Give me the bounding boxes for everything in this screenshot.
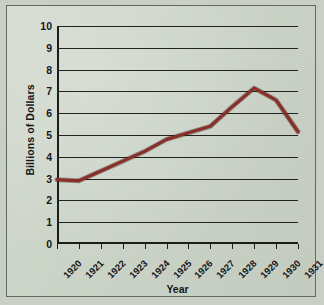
x-tick-label: 1924: [149, 258, 171, 280]
x-tick-mark: [145, 244, 146, 249]
y-axis-title: Billions of Dollars: [24, 55, 36, 205]
x-tick-mark: [188, 244, 189, 249]
y-tick-label: 3: [46, 173, 52, 184]
x-tick-mark: [232, 244, 233, 249]
x-tick-mark: [101, 244, 102, 249]
x-tick-mark: [79, 244, 80, 249]
x-tick-label: 1931: [303, 258, 324, 280]
plot-area: 012345678910 192019211922192319241925192…: [57, 26, 298, 244]
x-tick-label: 1920: [62, 258, 84, 280]
x-tick-mark: [167, 244, 168, 249]
y-tick-label: 4: [46, 152, 52, 163]
data-series-line: [57, 26, 298, 244]
x-tick-mark: [210, 244, 211, 249]
x-tick-label: 1929: [259, 258, 281, 280]
x-tick-label: 1927: [215, 258, 237, 280]
x-tick-label: 1925: [171, 258, 193, 280]
x-tick-label: 1922: [106, 258, 128, 280]
y-tick-label: 10: [40, 21, 52, 32]
x-tick-label: 1921: [84, 258, 106, 280]
y-tick-label: 5: [46, 130, 52, 141]
y-tick-label: 1: [46, 217, 52, 228]
x-axis-title: Year: [57, 283, 298, 295]
x-tick-mark: [298, 244, 299, 249]
y-tick-label: 9: [46, 43, 52, 54]
x-tick-label: 1923: [127, 258, 149, 280]
x-tick-mark: [123, 244, 124, 249]
y-tick-label: 6: [46, 108, 52, 119]
y-tick-label: 8: [46, 64, 52, 75]
x-tick-label: 1930: [281, 258, 303, 280]
chart-card: Billions of Dollars 012345678910 1920192…: [6, 5, 316, 297]
x-tick-label: 1926: [193, 258, 215, 280]
y-tick-label: 7: [46, 86, 52, 97]
y-tick-label: 0: [46, 239, 52, 250]
x-tick-label: 1928: [237, 258, 259, 280]
chart-screenshot: Billions of Dollars 012345678910 1920192…: [0, 0, 324, 305]
x-tick-mark: [254, 244, 255, 249]
x-tick-mark: [276, 244, 277, 249]
y-tick-label: 2: [46, 195, 52, 206]
x-tick-mark: [57, 244, 58, 249]
